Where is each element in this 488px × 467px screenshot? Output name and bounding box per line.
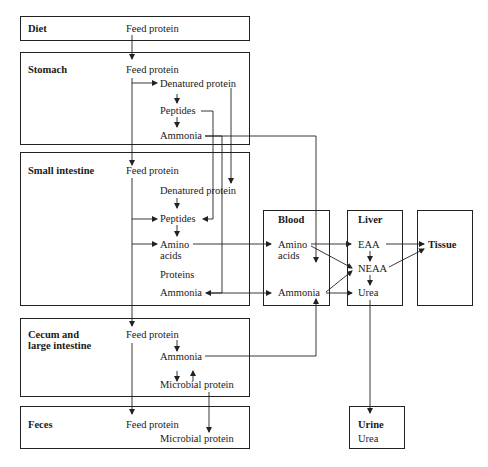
feces-title: Feces [28,419,52,430]
stomach-denatured-protein: Denatured protein [160,78,236,89]
stomach-title: Stomach [28,64,67,75]
si-denatured-protein: Denatured protein [160,185,236,196]
tissue-title: Tissue [428,239,456,250]
blood-ammonia: Ammonia [278,287,320,298]
feces-microbial-protein: Microbial protein [160,433,234,444]
cecum-title-line2: large intestine [28,340,91,351]
cecum-feed-protein: Feed protein [126,329,179,340]
si-ammonia: Ammonia [160,287,202,298]
blood-title: Blood [278,214,304,225]
cecum-ammonia: Ammonia [160,351,202,362]
stomach-feed-protein: Feed protein [126,64,179,75]
feces-feed-protein: Feed protein [126,419,179,430]
stomach-ammonia: Ammonia [160,130,202,141]
si-acids: acids [160,250,182,261]
liver-urea: Urea [358,287,378,298]
flow-arrows [0,0,488,467]
si-feed-protein: Feed protein [126,165,179,176]
si-peptides: Peptides [160,213,196,224]
si-amino: Amino [160,239,189,250]
liver-eaa: EAA [358,239,380,250]
liver-neaa: NEAA [358,263,387,274]
blood-amino: Amino [278,239,307,250]
urine-title: Urine [358,419,384,430]
cecum-title-line1: Cecum and [28,329,79,340]
urine-urea: Urea [358,433,378,444]
diet-feed-protein: Feed protein [126,23,179,34]
diet-title: Diet [28,23,47,34]
blood-acids: acids [278,250,300,261]
si-proteins: Proteins [160,269,194,280]
stomach-peptides: Peptides [160,105,196,116]
liver-title: Liver [358,214,383,225]
cecum-microbial-protein: Microbial protein [160,379,234,390]
small-intestine-title: Small intestine [28,165,94,176]
